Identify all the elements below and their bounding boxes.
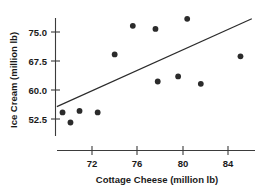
data-point bbox=[95, 110, 101, 116]
y-axis-title: Ice Cream (million lb) bbox=[8, 32, 19, 128]
data-point bbox=[155, 79, 161, 85]
data-point bbox=[153, 26, 159, 32]
x-tick-label-84: 84 bbox=[223, 158, 234, 169]
data-point bbox=[60, 110, 66, 116]
x-tick-label-76: 76 bbox=[132, 158, 143, 169]
x-tick-label-80: 80 bbox=[178, 158, 189, 169]
data-point bbox=[130, 23, 136, 29]
x-axis-title: Cottage Cheese (million lb) bbox=[96, 174, 218, 185]
trend-line bbox=[57, 19, 252, 107]
data-point bbox=[198, 81, 204, 87]
x-tick-label-72: 72 bbox=[87, 158, 98, 169]
data-point bbox=[175, 74, 181, 80]
data-point bbox=[112, 52, 118, 58]
scatter-plot-figure: 75.0 67.5 60.0 52.5 Ice Cream (million l… bbox=[0, 0, 268, 192]
data-point bbox=[184, 16, 190, 22]
data-point bbox=[77, 108, 83, 114]
y-tick-label-75: 75.0 bbox=[29, 27, 48, 38]
y-tick-label-52-5: 52.5 bbox=[29, 114, 48, 125]
plot-canvas: 75.0 67.5 60.0 52.5 Ice Cream (million l… bbox=[0, 0, 268, 192]
data-point bbox=[68, 120, 74, 126]
data-point bbox=[238, 53, 244, 59]
y-tick-label-67-5: 67.5 bbox=[29, 56, 48, 67]
data-point-group bbox=[60, 16, 244, 125]
y-tick-label-60: 60.0 bbox=[29, 85, 48, 96]
